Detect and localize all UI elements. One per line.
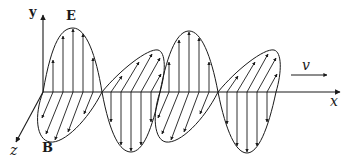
axes	[16, 15, 340, 142]
z-axis	[16, 92, 43, 142]
z-axis-label: z	[10, 143, 17, 157]
electric-field-wave	[43, 28, 276, 153]
velocity-label: v	[302, 58, 310, 72]
electric-field-label: E	[66, 9, 76, 22]
x-axis-label: x	[330, 94, 338, 108]
magnetic-field-label: B	[42, 141, 53, 154]
magnetic-field-wave	[38, 50, 281, 142]
y-axis-label: y	[29, 5, 37, 18]
